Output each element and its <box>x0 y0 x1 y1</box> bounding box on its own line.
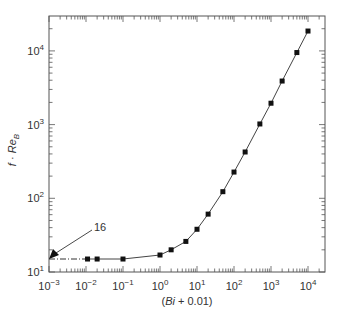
data-point-marker <box>195 227 200 232</box>
data-point-marker <box>158 253 163 258</box>
data-point-marker <box>206 212 211 217</box>
x-tick-label: 10−1 <box>112 278 134 292</box>
annotation-arrow <box>49 230 92 259</box>
tick-labels: 10−310−210−1100101102103104101102103104 <box>27 43 317 292</box>
data-point-marker <box>243 149 248 154</box>
data-point-marker <box>95 257 100 262</box>
y-tick-label: 102 <box>27 190 44 204</box>
x-tick-label: 103 <box>263 278 280 292</box>
data-point-marker <box>269 101 274 106</box>
y-axis-label: f · ReB <box>6 133 21 166</box>
x-tick-label: 100 <box>152 278 169 292</box>
data-point-marker <box>121 257 126 262</box>
x-tick-label: 101 <box>189 278 206 292</box>
data-point-marker <box>280 79 285 84</box>
x-axis-label: (Bi + 0.01) <box>161 295 212 307</box>
log-log-chart: 10−310−210−1100101102103104101102103104 … <box>0 0 341 321</box>
data-markers <box>85 29 310 262</box>
annotation-label: 16 <box>94 221 106 233</box>
y-tick-label: 104 <box>27 43 44 57</box>
x-tick-label: 10−2 <box>75 278 97 292</box>
data-point-marker <box>306 29 311 34</box>
plot-frame <box>49 16 325 272</box>
data-point-marker <box>220 189 225 194</box>
data-point-marker <box>183 239 188 244</box>
x-tick-label: 102 <box>226 278 243 292</box>
data-point-marker <box>169 247 174 252</box>
y-tick-label: 101 <box>27 264 44 278</box>
data-point-marker <box>232 170 237 175</box>
data-point-marker <box>257 121 262 126</box>
x-tick-label: 10−3 <box>38 278 60 292</box>
data-point-marker <box>294 50 299 55</box>
data-point-marker <box>85 257 90 262</box>
y-tick-label: 103 <box>27 117 44 131</box>
x-tick-label: 104 <box>300 278 317 292</box>
axis-ticks <box>49 16 325 272</box>
data-line <box>88 31 309 259</box>
